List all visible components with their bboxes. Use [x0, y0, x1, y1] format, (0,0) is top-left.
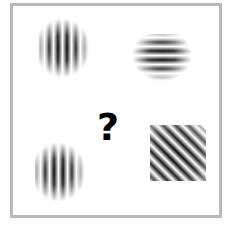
diagonal-gabor-bottom-right [150, 125, 206, 181]
vertical-gabor-top-left [39, 18, 95, 78]
vertical-gabor-bottom-left [35, 142, 91, 202]
horizontal-gabor-top-right [132, 34, 192, 86]
question-mark: ? [93, 105, 123, 149]
